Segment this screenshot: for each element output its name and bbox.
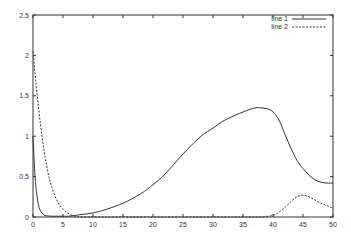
x-tick-label: 25 <box>179 221 187 228</box>
legend-label-line-1: line 1 <box>271 15 288 22</box>
plot-frame <box>33 15 333 217</box>
x-tick-label: 45 <box>299 221 307 228</box>
y-tick-label: 1.5 <box>19 92 29 99</box>
y-tick-label: 0 <box>25 214 29 221</box>
x-tick-label: 50 <box>329 221 337 228</box>
y-tick-label: 0.5 <box>19 173 29 180</box>
series-line-1 <box>33 108 333 217</box>
x-tick-label: 15 <box>119 221 127 228</box>
y-tick-label: 1 <box>25 133 29 140</box>
series-layer <box>33 51 333 217</box>
x-tick-label: 20 <box>149 221 157 228</box>
x-tick-label: 30 <box>209 221 217 228</box>
legend: line 1 line 2 <box>271 15 326 30</box>
plot-border <box>33 15 333 217</box>
series-line-2 <box>33 51 333 217</box>
x-tick-label: 0 <box>31 221 35 228</box>
x-tick-label: 40 <box>269 221 277 228</box>
y-axis-ticks: 00.511.522.5 <box>19 12 333 221</box>
y-tick-label: 2 <box>25 52 29 59</box>
x-axis-ticks: 05101520253035404550 <box>31 15 337 228</box>
line-chart: 05101520253035404550 00.511.522.5 line 1… <box>0 0 351 239</box>
x-tick-label: 5 <box>61 221 65 228</box>
x-tick-label: 10 <box>89 221 97 228</box>
x-tick-label: 35 <box>239 221 247 228</box>
legend-label-line-2: line 2 <box>271 23 288 30</box>
y-tick-label: 2.5 <box>19 12 29 19</box>
